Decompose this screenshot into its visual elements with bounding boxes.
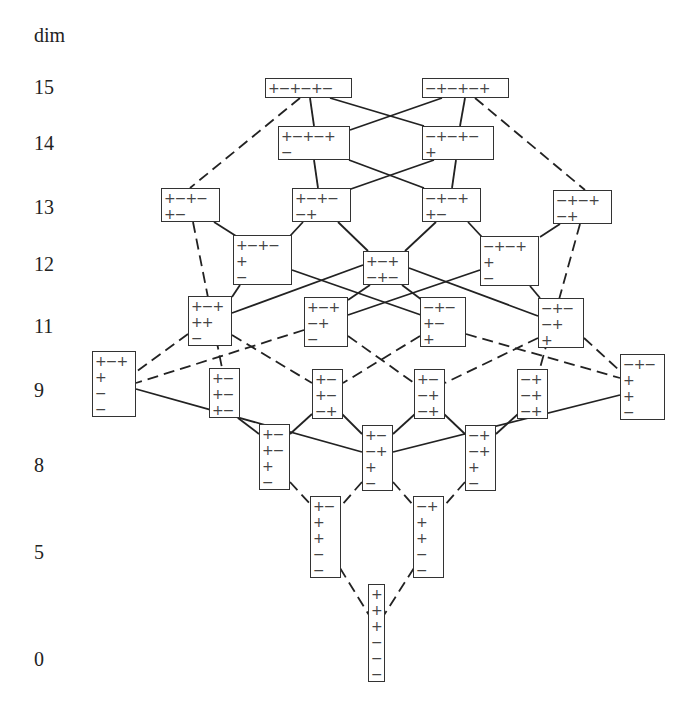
sign-row: + [425, 144, 491, 160]
sign-row: − [313, 562, 338, 578]
solid-edge [342, 414, 362, 434]
sign-row: − [371, 634, 382, 650]
sign-row: +− [313, 498, 338, 514]
sign-row: + [236, 253, 289, 269]
sign-row: −+ [417, 403, 442, 419]
sign-row: −+ [307, 315, 345, 331]
dashed-edge [348, 336, 414, 383]
sign-pattern-node: −+++−− [413, 496, 444, 578]
sign-pattern-node: −+−+−+ [420, 297, 466, 347]
sign-row: −+−+− [425, 128, 491, 144]
sign-row: +− [315, 387, 340, 403]
sign-pattern-node: −+−++− [422, 188, 481, 222]
sign-row: +− [212, 402, 237, 418]
dashed-edge [340, 568, 369, 615]
solid-edge [290, 222, 303, 236]
sign-row: + [313, 530, 338, 546]
sign-row: + [541, 332, 581, 348]
sign-row: +−+ [95, 353, 133, 369]
dashed-edge [584, 338, 620, 371]
sign-row: +−+ [191, 298, 229, 314]
sign-pattern-node: −+−+−+ [422, 126, 494, 160]
sign-row: −+− [366, 269, 406, 285]
sign-row: ++ [191, 314, 229, 330]
sign-row: − [307, 331, 345, 347]
sign-row: −+ [468, 443, 493, 459]
sign-pattern-node: +−+−+− [209, 368, 240, 418]
dashed-edge [232, 335, 312, 383]
solid-edge [330, 98, 424, 126]
sign-row: +−+ [307, 299, 345, 315]
sign-pattern-node: +−+−+− [278, 126, 350, 160]
sign-pattern-node: +−+−+− [259, 424, 290, 490]
sign-row: − [416, 546, 441, 562]
sign-row: −+ [315, 403, 340, 419]
sign-row: + [483, 254, 536, 270]
sign-row: +−+−+ [281, 128, 347, 144]
dashed-edge [444, 482, 465, 506]
dashed-edge [193, 222, 222, 368]
sign-row: +− [425, 206, 478, 222]
sign-row: + [95, 369, 133, 385]
solid-edge [460, 98, 465, 126]
solid-edge [232, 285, 240, 297]
solid-edge [349, 160, 424, 188]
dimension-label: 14 [34, 132, 54, 155]
sign-pattern-node: +−+−+− [363, 251, 409, 285]
sign-pattern-node: +−+−+− [233, 235, 292, 285]
sign-row: + [416, 530, 441, 546]
sign-row: +−+− [236, 237, 289, 253]
sign-row: +− [212, 370, 237, 386]
sign-row: +− [365, 427, 390, 443]
solid-edge [452, 160, 456, 188]
sign-row: −+− [423, 299, 463, 315]
sign-pattern-node: −+−++− [465, 425, 496, 491]
sign-pattern-node: +−−+−+ [414, 369, 445, 419]
solid-edge [348, 285, 370, 300]
solid-edge [530, 286, 540, 298]
solid-edge [496, 414, 518, 434]
dimension-label: 13 [34, 196, 54, 219]
sign-row: + [262, 458, 287, 474]
sign-row: −+− [541, 300, 581, 316]
dimension-label: 8 [34, 454, 44, 477]
sign-row: − [313, 546, 338, 562]
solid-edge [444, 414, 465, 434]
sign-pattern-node: +−+++− [188, 296, 232, 346]
sign-pattern-node: +−++−− [310, 496, 341, 578]
sign-row: − [483, 270, 536, 286]
sign-row: + [371, 586, 382, 602]
sign-row: + [371, 618, 382, 634]
sign-row: + [365, 459, 390, 475]
sign-pattern-node: +++−−− [368, 584, 385, 682]
sign-row: −+− [623, 356, 662, 372]
sign-row: −+−+ [556, 192, 609, 208]
sign-row: −+ [295, 206, 348, 222]
sign-row: −+−+ [483, 238, 536, 254]
sign-row: −+ [541, 316, 581, 332]
sign-pattern-node: +−+−+− [161, 188, 220, 222]
solid-edge [393, 414, 415, 434]
sign-row: − [236, 269, 289, 285]
dashed-edge [393, 482, 414, 506]
sign-pattern-node: −+−+−+ [422, 78, 509, 98]
axis-title: dim [34, 24, 65, 47]
solid-edge [338, 222, 368, 251]
sign-row: −+−+−+ [425, 80, 506, 96]
dimension-label: 0 [34, 648, 44, 671]
lattice-diagram: dim 15141312119850 +−+−+−−+−+−++−+−+−−+−… [0, 0, 694, 719]
sign-pattern-node: −+−++− [480, 236, 539, 286]
sign-row: − [371, 650, 382, 666]
sign-row: − [95, 401, 133, 417]
dashed-edge [384, 568, 414, 615]
sign-row: + [423, 331, 463, 347]
sign-pattern-node: −+−+−+ [517, 369, 548, 419]
sign-pattern-node: +−+−+− [265, 78, 352, 98]
solid-edge [540, 224, 560, 237]
sign-row: − [623, 404, 662, 420]
sign-pattern-node: +−++−− [92, 351, 136, 417]
sign-row: +−+− [164, 190, 217, 206]
sign-row: − [416, 562, 441, 578]
dimension-label: 9 [34, 379, 44, 402]
sign-row: − [262, 474, 287, 490]
